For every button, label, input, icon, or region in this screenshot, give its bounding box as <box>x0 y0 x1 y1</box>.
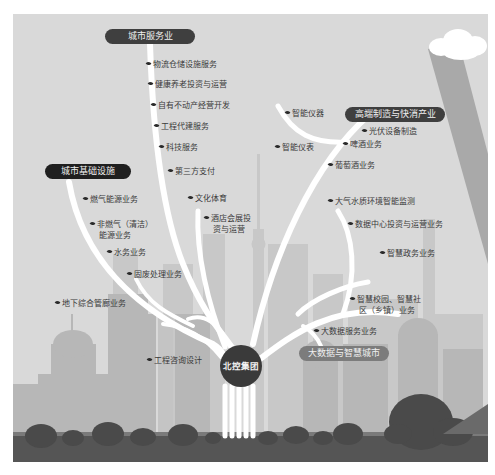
infographic-panel: 城市服务业 高端制造与快消产业 城市基础设施 大数据与智慧城市 北控集团 物流仓… <box>13 14 488 462</box>
leaf-icon <box>148 81 154 86</box>
item-real-estate: 自有不动产经营开发 <box>151 100 230 111</box>
leaf-icon <box>188 195 194 200</box>
leaf-icon <box>168 168 174 173</box>
item-photovoltaic: 光伏设备制造 <box>362 126 417 137</box>
item-culture-sports: 文化体育 <box>188 193 227 204</box>
leaf-icon <box>350 296 356 301</box>
leaf-icon <box>154 123 160 128</box>
leaf-icon <box>348 221 354 226</box>
category-city-infrastructure: 城市基础设施 <box>45 164 131 179</box>
category-city-services: 城市服务业 <box>105 29 195 44</box>
item-construction-agency: 工程代建服务 <box>154 121 209 132</box>
leaf-icon <box>151 102 157 107</box>
leaf-icon <box>362 128 368 133</box>
item-third-party-payment: 第三方支付 <box>168 166 215 177</box>
item-non-gas-energy: 非燃气（清洁）能源业务 <box>90 219 153 241</box>
leaf-icon <box>107 249 113 254</box>
item-data-center: 数据中心投资与运营业务 <box>348 219 443 230</box>
leaf-icon <box>146 61 152 66</box>
cloud-icon <box>429 29 487 60</box>
category-high-end-manufacturing: 高端制造与快消产业 <box>345 107 445 122</box>
leaf-icon <box>285 110 291 115</box>
item-big-data-services: 大数据服务业务 <box>314 326 377 337</box>
leaf-icon <box>380 250 386 255</box>
item-environment-monitoring: 大气水质环境智能监测 <box>328 196 415 207</box>
item-water: 水务业务 <box>107 247 146 258</box>
item-tech-services: 科技服务 <box>159 142 198 153</box>
leaf-icon <box>127 271 133 276</box>
leaf-icon <box>159 144 165 149</box>
light-ray <box>428 39 488 264</box>
leaf-icon <box>328 198 334 203</box>
item-beer: 啤酒业务 <box>343 139 382 150</box>
item-wine: 葡萄酒业务 <box>328 160 375 171</box>
item-smart-campus: 智慧校园、智慧社区（乡镇）业务 <box>350 294 421 316</box>
leaf-icon <box>83 196 89 201</box>
item-solid-waste: 固废处理业务 <box>127 269 182 280</box>
leaf-icon <box>204 215 210 220</box>
item-engineering-consulting: 工程咨询设计 <box>147 355 202 366</box>
hub-beijing-enterprises-group: 北控集团 <box>220 345 262 387</box>
item-hotel-exhibition: 酒店会展投资与运营 <box>204 213 251 235</box>
item-smart-meters: 智能仪表 <box>275 142 314 153</box>
leaf-icon <box>343 141 349 146</box>
item-gas-energy: 燃气能源业务 <box>83 194 138 205</box>
leaf-icon <box>314 328 320 333</box>
item-smart-instruments: 智能仪器 <box>285 108 324 119</box>
city-skyline-illustration <box>13 14 488 462</box>
leaf-icon <box>90 221 96 226</box>
leaf-icon <box>147 357 153 362</box>
item-logistics: 物流仓储设施服务 <box>146 59 217 70</box>
item-utility-tunnel: 地下综合管廊业务 <box>55 298 126 309</box>
item-health-elderly: 健康养老投资与运营 <box>148 79 227 90</box>
category-big-data-smart-city: 大数据与智慧城市 <box>299 346 389 361</box>
leaf-icon <box>328 162 334 167</box>
item-smart-government: 智慧政务业务 <box>380 248 435 259</box>
leaf-icon <box>275 144 281 149</box>
leaf-icon <box>55 300 61 305</box>
